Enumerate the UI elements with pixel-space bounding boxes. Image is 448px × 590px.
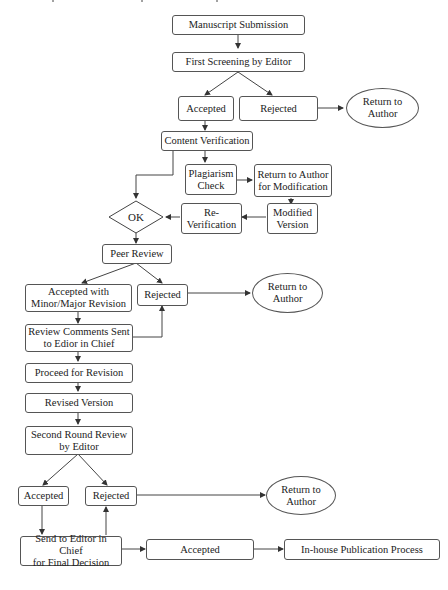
acc-rev-line2: Minor/Major Revision (31, 298, 126, 310)
node-re-verification: Re-Verification (181, 203, 242, 234)
acc-rev-line1: Accepted with (31, 286, 126, 298)
ok-decision-label: OK (116, 211, 156, 223)
modified-line1: Modified (273, 207, 312, 219)
node-accepted-1: Accepted (178, 96, 234, 121)
node-return-author-3: Return toAuthor (266, 476, 336, 515)
plagiarism-line2: Check (189, 180, 234, 192)
node-return-author-1: Return toAuthor (346, 88, 419, 128)
return-author-line1: Return to (363, 96, 402, 108)
node-accepted-3: Accepted (18, 486, 69, 506)
return-mod-line2: for Modification (257, 181, 328, 193)
node-manuscript-submission: Manuscript Submission (172, 15, 305, 35)
node-proceed-revision: Proceed for Revision (25, 363, 133, 383)
return-mod-line1: Return to Author (257, 169, 328, 181)
node-review-comments: Review Comments Sentto Edior in Chief (25, 324, 133, 352)
node-modified-version: ModifiedVersion (267, 203, 318, 234)
node-accepted-revision: Accepted withMinor/Major Revision (25, 284, 132, 312)
second-line1: Second Round Review (31, 429, 127, 441)
reverif-line1: Re- (187, 207, 237, 219)
return-author-line2: Author (281, 496, 320, 508)
node-return-for-modification: Return to Authorfor Modification (254, 164, 332, 197)
node-rejected-3: Rejected (85, 486, 137, 506)
reverif-line2: Verification (187, 219, 237, 231)
node-rejected-2: Rejected (137, 284, 188, 306)
node-return-author-2: Return toAuthor (252, 273, 323, 313)
send-line2: for Final Decision (23, 557, 119, 569)
return-author-line1: Return to (268, 281, 307, 293)
review-line1: Review Comments Sent (28, 326, 130, 338)
node-first-screening: First Screening by Editor (172, 52, 305, 72)
return-author-line2: Author (268, 293, 307, 305)
plagiarism-line1: Plagiarism (189, 168, 234, 180)
node-send-final-decision: Send to Editor in Chieffor Final Decisio… (20, 536, 122, 566)
modified-line2: Version (273, 219, 312, 231)
node-in-house-publication: In-house Publication Process (284, 539, 440, 560)
node-plagiarism-check: PlagiarismCheck (185, 164, 237, 195)
node-content-verification: Content Verification (161, 131, 253, 151)
review-line2: to Edior in Chief (28, 338, 130, 350)
node-accepted-final: Accepted (146, 539, 254, 560)
send-line1: Send to Editor in Chief (23, 533, 119, 557)
return-author-line2: Author (363, 108, 402, 120)
node-peer-review: Peer Review (102, 244, 172, 264)
second-line2: by Editor (31, 441, 127, 453)
return-author-line1: Return to (281, 484, 320, 496)
node-revised-version: Revised Version (25, 393, 133, 413)
node-rejected-1: Rejected (239, 96, 318, 121)
node-second-round-review: Second Round Reviewby Editor (25, 426, 133, 455)
